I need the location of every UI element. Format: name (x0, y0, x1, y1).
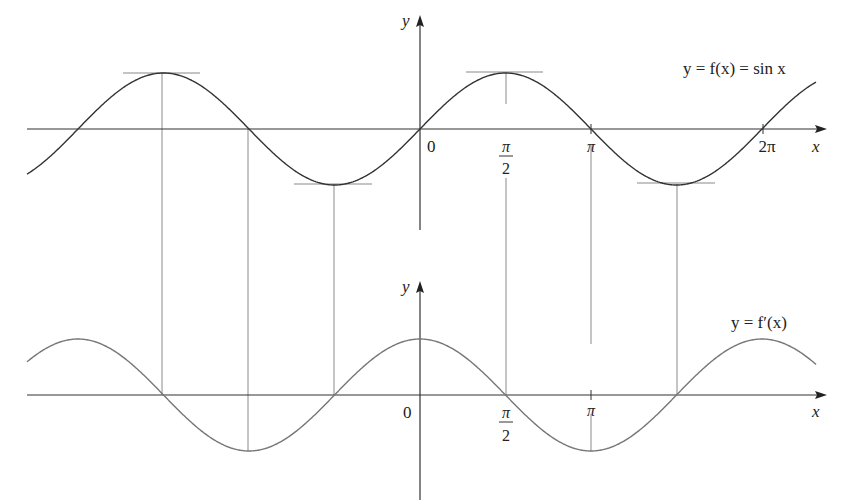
bottom-x-axis-label: x (811, 402, 820, 421)
top-graph: y x 0 π 2 π 2π y = f(x) = sin x (27, 11, 827, 230)
bottom-tick-label-0: 0 (403, 403, 412, 422)
top-tick-label-pi-half-num: π (502, 138, 511, 155)
tangent-lines (123, 72, 715, 184)
top-tick-label-0: 0 (427, 137, 436, 156)
bottom-tick-label-pi: π (587, 402, 596, 419)
top-y-axis-label: y (400, 11, 410, 30)
bottom-tick-label-pi-half-den: 2 (502, 427, 510, 444)
top-tick-label-2pi: 2π (758, 137, 776, 156)
top-curve-label: y = f(x) = sin x (683, 59, 786, 78)
top-x-axis-label: x (811, 137, 820, 156)
top-tick-label-pi-half-den: 2 (502, 160, 510, 177)
bottom-curve-label: y = f′(x) (731, 313, 787, 332)
sin-and-derivative-figure: y x 0 π 2 π 2π y = f(x) = sin x y x 0 π … (0, 0, 842, 504)
bottom-graph: y x 0 π 2 π y = f′(x) (27, 277, 827, 500)
bottom-y-axis-label: y (400, 277, 410, 296)
top-tick-label-pi: π (587, 138, 596, 155)
bottom-tick-label-pi-half-num: π (502, 404, 511, 421)
